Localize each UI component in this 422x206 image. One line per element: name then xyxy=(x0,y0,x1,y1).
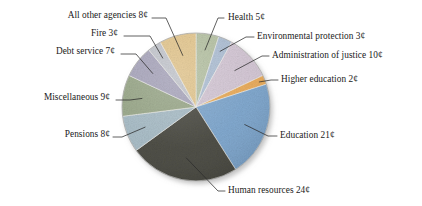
label-miscellaneous: Miscellaneous 9¢ xyxy=(5,93,110,102)
pie-sheen-overlay xyxy=(122,33,270,181)
label-pensions: Pensions 8¢ xyxy=(24,130,110,139)
label-human-resources: Human resources 24¢ xyxy=(228,186,310,195)
label-higher-education: Higher education 2¢ xyxy=(281,75,358,84)
pie-chart-figure: All other agencies 8¢ Fire 3¢ Debt servi… xyxy=(0,0,422,206)
label-debt-service: Debt service 7¢ xyxy=(10,47,115,56)
label-all-other-agencies: All other agencies 8¢ xyxy=(28,11,148,20)
label-health: Health 5¢ xyxy=(228,13,265,22)
label-fire: Fire 3¢ xyxy=(28,29,118,38)
label-administration-of-justice: Administration of justice 10¢ xyxy=(272,51,383,60)
label-environmental-protection: Environmental protection 3¢ xyxy=(257,32,365,41)
label-education: Education 21¢ xyxy=(280,131,335,140)
